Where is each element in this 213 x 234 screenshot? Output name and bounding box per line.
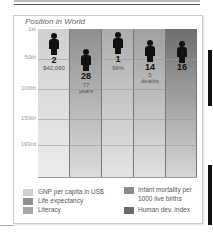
ytick-100th: 100th (14, 85, 36, 91)
unit-infant-mortality: deaths (134, 78, 166, 84)
legend-swatch-life (23, 198, 33, 205)
rank-gnp: 2 (38, 55, 70, 65)
unit-life-expectancy: years (70, 88, 102, 94)
gridline-100 (38, 89, 197, 90)
ytick-193rd: 193rd (14, 141, 36, 147)
rank-infant-mortality: 14 (134, 62, 166, 72)
page-edge-bar (208, 50, 212, 106)
axis-bottom (38, 177, 197, 178)
legend-swatch-infant (124, 187, 134, 194)
chart-title: Position in World (25, 17, 85, 26)
legend-literacy: Literacy (38, 206, 61, 213)
ytick-1st: 1st (14, 26, 36, 32)
rank-literacy: 1 (102, 54, 134, 64)
legend-swatch-hdi (124, 207, 134, 214)
plot-area: 2 $42,060 28 77 years 1 99% 14 5 deaths … (38, 29, 197, 178)
page-edge-bar (208, 165, 212, 225)
header-rule-lower (14, 0, 200, 5)
person-icon (113, 32, 123, 54)
legend-swatch-literacy (23, 207, 33, 214)
legend-hdi: Human dev. index (138, 206, 190, 213)
value-literacy: 99% (102, 65, 134, 71)
gridline-150 (38, 119, 197, 120)
legend-infant-2: 1000 live births (138, 195, 182, 202)
legend-life: Life expectancy (38, 197, 83, 204)
page-rule (0, 225, 14, 226)
value-gnp: $42,060 (38, 65, 70, 71)
person-icon (177, 41, 187, 63)
person-icon (49, 33, 59, 55)
legend-infant: Infant mortality per (138, 186, 192, 193)
legend-gnp: GNP per capita in US$ (38, 188, 104, 195)
person-icon (145, 40, 155, 62)
person-icon (81, 49, 91, 71)
ytick-50th: 50th (14, 54, 36, 60)
ytick-150th: 150th (14, 115, 36, 121)
rank-life-expectancy: 28 (70, 71, 102, 81)
gridline-193 (38, 145, 197, 146)
legend-swatch-gnp (23, 189, 33, 196)
rank-human-dev-index: 16 (166, 62, 198, 72)
